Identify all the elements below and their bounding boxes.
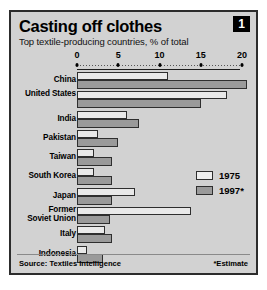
axis-dot (80, 65, 81, 67)
bar-1975 (77, 188, 135, 196)
axis-dot (164, 65, 165, 67)
legend-item: 1997* (196, 185, 244, 196)
x-tick-label-20: 20 (237, 50, 247, 60)
bar-1997 (77, 80, 247, 89)
axis-dot (191, 65, 192, 67)
bar-1997 (77, 119, 139, 128)
axis-dot (215, 65, 216, 67)
bar-group-row: FormerSoviet Union (11, 206, 256, 225)
axis-dot (188, 65, 189, 67)
bar-1975 (77, 111, 127, 119)
axis-dot (92, 65, 93, 67)
axis-dot (140, 65, 141, 67)
bar-group-row: China (11, 71, 256, 90)
axis-dot (101, 65, 102, 67)
bar-group-row: United States (11, 90, 256, 109)
axis-dot (206, 65, 207, 67)
axis-dot (104, 65, 105, 67)
category-label: FormerSoviet Union (0, 206, 76, 223)
axis-dot (224, 65, 225, 67)
bar-1997 (77, 99, 201, 108)
axis-dot (89, 65, 90, 67)
bar-1997 (77, 157, 112, 166)
bar-1997 (77, 234, 112, 243)
footer-divider (17, 254, 250, 255)
axis-dot (149, 65, 150, 67)
bar-group-row: Taiwan (11, 148, 256, 167)
bar-1997 (77, 138, 118, 147)
chart-panel: Casting off clothes Top textile-producin… (9, 10, 258, 275)
axis-dot (182, 65, 183, 67)
bar-1975 (77, 91, 227, 99)
axis-dot (176, 65, 177, 67)
axis-dot (83, 65, 84, 67)
axis-dot (131, 65, 132, 67)
bar-1975 (77, 207, 191, 215)
category-label: United States (0, 90, 76, 99)
legend-item: 1975 (196, 170, 244, 181)
axis-dot (218, 65, 219, 67)
bar-1975 (77, 168, 94, 176)
axis-dot (233, 65, 234, 67)
axis-dot (143, 65, 144, 67)
axis-dot (221, 65, 222, 67)
axis-dot (161, 65, 162, 67)
figure-number-badge: 1 (233, 16, 250, 32)
axis-dot (197, 65, 198, 67)
category-label: South Korea (0, 172, 76, 181)
bar-1997 (77, 215, 110, 224)
axis-dot (95, 65, 96, 67)
bar-1975 (77, 226, 105, 234)
chart-subtitle: Top textile-producing countries, % of to… (19, 36, 188, 47)
axis-dot (137, 65, 138, 67)
x-axis-tick-labels: 05101520 (11, 50, 256, 62)
category-label: Japan (0, 192, 76, 201)
x-tick-label-10: 10 (154, 50, 164, 60)
axis-dot (155, 65, 156, 67)
axis-dot (185, 65, 186, 67)
axis-dot (98, 65, 99, 67)
x-tick-marker-20 (241, 63, 244, 67)
axis-dot (203, 65, 204, 67)
axis-dot (170, 65, 171, 67)
axis-dot (236, 65, 237, 67)
chart-legend: 1975 1997* (196, 170, 244, 200)
x-tick-marker-5 (117, 63, 120, 67)
bar-1975 (77, 72, 168, 80)
axis-dot (194, 65, 195, 67)
estimate-note: *Estimate (213, 259, 248, 268)
axis-dot (227, 65, 228, 67)
axis-dot (122, 65, 123, 67)
category-label: Pakistan (0, 134, 76, 143)
bar-group-row: India (11, 110, 256, 129)
axis-dot (173, 65, 174, 67)
axis-dot (167, 65, 168, 67)
bar-1975 (77, 149, 94, 157)
legend-swatch-1997 (196, 186, 213, 195)
category-label: India (0, 115, 76, 124)
category-label: Taiwan (0, 153, 76, 162)
category-label: Italy (0, 230, 76, 239)
source-note: Source: Textiles Intelligence (19, 259, 121, 268)
axis-dot (86, 65, 87, 67)
x-tick-label-15: 15 (196, 50, 206, 60)
axis-dot (152, 65, 153, 67)
category-label: China (0, 76, 76, 85)
legend-label-1997: 1997* (219, 185, 244, 196)
axis-dot (128, 65, 129, 67)
x-axis-dotted-line (77, 63, 242, 68)
axis-dot (209, 65, 210, 67)
legend-label-1975: 1975 (219, 170, 240, 181)
axis-dot (113, 65, 114, 67)
axis-dot (179, 65, 180, 67)
bar-1975 (77, 130, 98, 138)
bar-1975 (77, 246, 87, 254)
axis-dot (110, 65, 111, 67)
x-tick-label-5: 5 (116, 50, 121, 60)
x-axis-rule (77, 69, 240, 70)
axis-dot (107, 65, 108, 67)
bar-rows: ChinaUnited StatesIndiaPakistanTaiwanSou… (11, 71, 256, 264)
axis-dot (134, 65, 135, 67)
axis-dot (230, 65, 231, 67)
legend-swatch-1975 (196, 171, 213, 180)
